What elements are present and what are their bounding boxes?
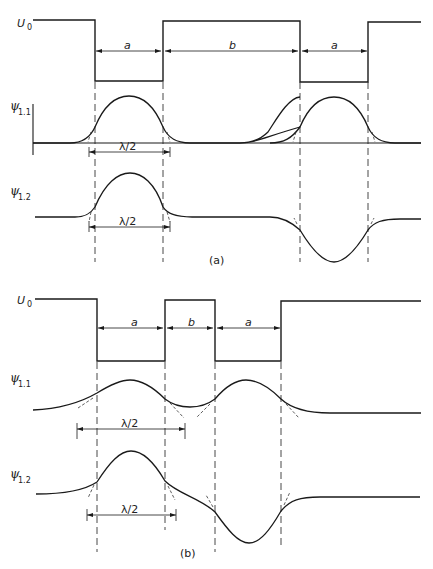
panel-a-well-left-dimension: a bbox=[96, 39, 161, 53]
panel-a-potential-label: U bbox=[17, 17, 25, 30]
panel-a-barrier-dimension: b bbox=[165, 39, 298, 53]
panel-b-psi12-halfwave-dimension: λ/2 bbox=[87, 503, 176, 521]
panel-b-psi12-curve bbox=[36, 451, 420, 543]
panel-a-caption: (a) bbox=[209, 254, 224, 267]
panel-a-psi12-tangent bbox=[371, 218, 374, 224]
panel-b-barrier-dimension: b bbox=[167, 316, 213, 330]
panel-b-psi11-halfwave-label: λ/2 bbox=[121, 417, 138, 430]
panel-b-potential-label: U bbox=[17, 294, 25, 307]
panel-b-psi12-halfwave-label: λ/2 bbox=[121, 503, 138, 516]
panel-b-psi11-halfwave-dimension: λ/2 bbox=[77, 417, 185, 439]
panel-a-psi11-curve-right bbox=[270, 97, 421, 143]
panel-a-well-right-dimension: a bbox=[302, 39, 367, 53]
panel-b-potential-label-sub: 0 bbox=[27, 300, 32, 309]
panel-b-well-right-dimension: a bbox=[217, 316, 280, 330]
panel-b-psi12-sub: 1.2 bbox=[18, 476, 31, 485]
panel-a: U 0 a b a ψ 1.1 bbox=[10, 17, 421, 267]
panel-b-barrier-label: b bbox=[188, 316, 195, 329]
panel-a-well-right-label: a bbox=[331, 39, 338, 52]
panel-a-psi11-curve bbox=[33, 96, 300, 143]
panel-b: U 0 a b a ψ 1.1 bbox=[10, 294, 421, 560]
panel-a-psi11-sub: 1.1 bbox=[18, 108, 31, 117]
panel-b-well-right-label: a bbox=[245, 316, 252, 329]
double-well-diagram: U 0 a b a ψ 1.1 bbox=[0, 0, 433, 569]
panel-a-barrier-label: b bbox=[229, 39, 236, 52]
panel-a-psi12-sub: 1.2 bbox=[18, 193, 31, 202]
panel-a-psi11-halfwave-label: λ/2 bbox=[119, 140, 136, 153]
panel-a-psi12-curve bbox=[35, 173, 421, 262]
panel-b-psi11-curve bbox=[33, 380, 421, 413]
panel-a-psi12-halfwave-label: λ/2 bbox=[119, 215, 136, 228]
panel-b-potential-curve bbox=[35, 299, 421, 361]
panel-b-well-left-dimension: a bbox=[98, 316, 163, 330]
panel-a-well-left-label: a bbox=[124, 39, 131, 52]
panel-b-well-left-label: a bbox=[131, 316, 138, 329]
panel-b-caption: (b) bbox=[180, 547, 196, 560]
panel-b-psi11-sub: 1.1 bbox=[18, 380, 31, 389]
panel-a-psi12-tangent bbox=[294, 218, 297, 224]
panel-b-psi11-tangent bbox=[78, 398, 93, 408]
panel-a-psi12-halfwave-dimension: λ/2 bbox=[89, 215, 170, 232]
panel-a-potential-label-sub: 0 bbox=[27, 23, 32, 32]
